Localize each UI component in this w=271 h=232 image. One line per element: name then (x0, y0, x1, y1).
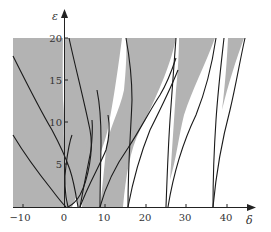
x-axis-label: δ (246, 214, 253, 227)
x-tick-labels: −10 0 10 20 30 40 (9, 212, 232, 223)
curve-b5 (213, 38, 224, 207)
region-tongue-3 (170, 38, 215, 180)
y-tick-label: 10 (49, 117, 62, 128)
y-axis-arrow-icon (61, 9, 68, 18)
x-tick-label: 10 (98, 212, 111, 223)
y-axis-label: ε (52, 10, 58, 23)
y-tick-label: 20 (49, 33, 62, 44)
x-tick-label: −10 (9, 212, 30, 223)
x-tick-label: 20 (139, 212, 152, 223)
x-axis-arrow-icon (247, 204, 256, 211)
stability-chart: −10 0 10 20 30 40 5 10 15 20 δ ε (0, 0, 271, 232)
y-tick-label: 5 (56, 159, 62, 170)
x-tick-label: 30 (179, 212, 192, 223)
x-tick-label: 40 (220, 212, 233, 223)
y-tick-label: 15 (49, 75, 62, 86)
x-tick-label: 0 (61, 212, 67, 223)
